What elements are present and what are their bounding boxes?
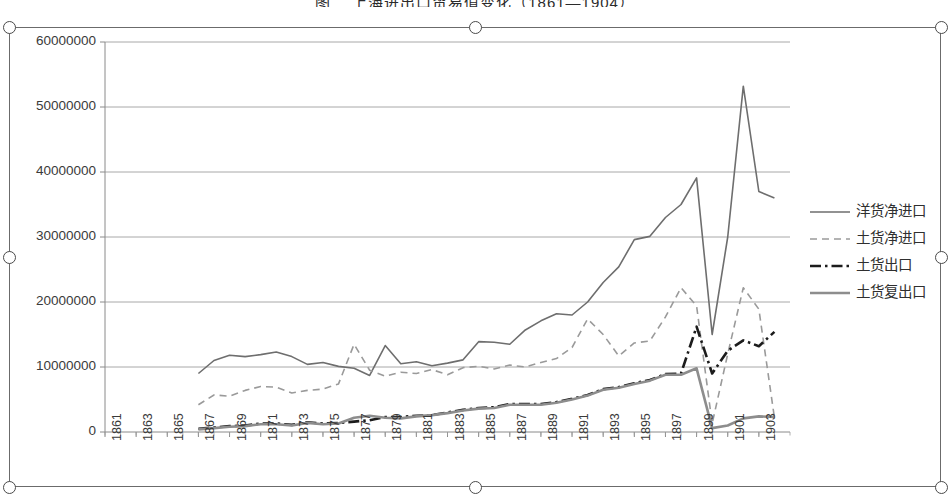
resize-handle-bottom-left[interactable] [3, 481, 16, 494]
resize-handle-top-right[interactable] [935, 21, 948, 34]
resize-handle-middle-right[interactable] [935, 251, 948, 264]
chart-selection-frame[interactable] [9, 27, 941, 487]
resize-handle-top-left[interactable] [3, 21, 16, 34]
resize-handle-top-center[interactable] [469, 21, 482, 34]
resize-handle-bottom-right[interactable] [935, 481, 948, 494]
chart-page: 图二 上海进出口贸易值变化（1861—1904） 010000000200000… [0, 0, 950, 504]
resize-handle-bottom-center[interactable] [469, 481, 482, 494]
resize-handle-middle-left[interactable] [3, 251, 16, 264]
